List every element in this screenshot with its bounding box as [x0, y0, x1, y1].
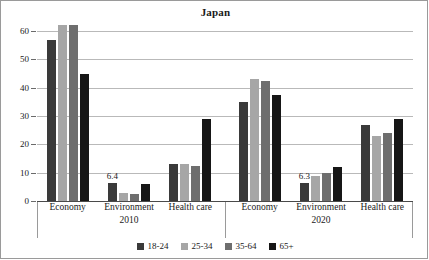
- y-tick-mark-40: [31, 88, 36, 89]
- bar: [394, 119, 403, 201]
- y-tick-label-60: 60: [0, 27, 29, 36]
- y-tick-label-20: 20: [0, 140, 29, 149]
- bar: [311, 176, 320, 202]
- chart-frame: Japan % 0102030405060 6.46.3 EconomyEnvi…: [0, 0, 428, 259]
- legend-item[interactable]: 18-24: [137, 242, 168, 251]
- legend-label: 18-24: [147, 242, 168, 251]
- legend-swatch-icon: [225, 243, 232, 250]
- bar: 6.4: [108, 183, 117, 201]
- bar: [141, 184, 150, 201]
- category-separator: [225, 202, 226, 238]
- legend-swatch-icon: [269, 243, 276, 250]
- legend-item[interactable]: 35-64: [225, 242, 256, 251]
- category-label: Economy: [37, 202, 98, 213]
- legend-swatch-icon: [181, 243, 188, 250]
- chart-legend: 18-2425-3435-6465+: [1, 238, 429, 254]
- bar: [130, 194, 139, 201]
- bar: 6.3: [300, 183, 309, 201]
- y-tick-mark-10: [31, 173, 36, 174]
- bar: [80, 74, 89, 202]
- bar-group: 6.4: [98, 31, 159, 201]
- bar: [169, 164, 178, 201]
- y-tick-mark-20: [31, 144, 36, 145]
- y-tick-mark-50: [31, 59, 36, 60]
- category-label: Environment: [290, 202, 351, 213]
- bar-group: [37, 31, 98, 201]
- supercategory-label-2010: 2010: [37, 215, 221, 226]
- bar: [239, 102, 248, 201]
- bar: [119, 193, 128, 202]
- category-label: Health care: [352, 202, 413, 213]
- y-tick-mark-30: [31, 116, 36, 117]
- y-tick-label-30: 30: [0, 112, 29, 121]
- bar: [333, 167, 342, 201]
- bar: [191, 166, 200, 201]
- bar-group: [352, 31, 413, 201]
- category-label: Economy: [229, 202, 290, 213]
- bar: [250, 79, 259, 201]
- legend-item[interactable]: 65+: [269, 242, 293, 251]
- legend-swatch-icon: [137, 243, 144, 250]
- bar: [261, 81, 270, 201]
- category-axis-labels: EconomyEnvironmentHealth careEconomyEnvi…: [37, 202, 413, 238]
- bar-group: 6.3: [290, 31, 351, 201]
- bar: [202, 119, 211, 201]
- plot-area: 0102030405060 6.46.3: [37, 31, 413, 201]
- bar: [272, 95, 281, 201]
- bar: [361, 125, 370, 202]
- y-tick-label-10: 10: [0, 169, 29, 178]
- bar: [47, 40, 56, 202]
- bar-value-label: 6.4: [107, 172, 118, 181]
- bar: [322, 173, 331, 201]
- y-tick-mark-0: [31, 201, 36, 202]
- bar: [372, 136, 381, 201]
- bar: [69, 25, 78, 201]
- y-tick-label-0: 0: [0, 197, 29, 206]
- y-tick-mark-60: [31, 31, 36, 32]
- bar-value-label: 6.3: [299, 172, 310, 181]
- bar: [58, 25, 67, 201]
- legend-item[interactable]: 25-34: [181, 242, 212, 251]
- chart-title: Japan: [1, 6, 429, 18]
- legend-label: 65+: [279, 242, 293, 251]
- bar: [180, 164, 189, 201]
- y-tick-label-40: 40: [0, 84, 29, 93]
- legend-label: 35-64: [235, 242, 256, 251]
- bar-group: [160, 31, 221, 201]
- bar: [383, 133, 392, 201]
- category-label: Health care: [160, 202, 221, 213]
- y-tick-label-50: 50: [0, 55, 29, 64]
- legend-label: 25-34: [191, 242, 212, 251]
- bar-group: [229, 31, 290, 201]
- category-label: Environment: [98, 202, 159, 213]
- supercategory-label-2020: 2020: [229, 215, 413, 226]
